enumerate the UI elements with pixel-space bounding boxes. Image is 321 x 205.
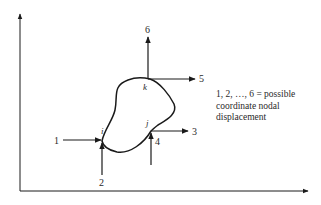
node-label-k: k — [143, 82, 148, 92]
displacement-label-5: 5 — [199, 73, 204, 84]
element-boundary — [102, 78, 175, 153]
displacement-label-2: 2 — [99, 177, 104, 188]
displacement-label-6: 6 — [145, 24, 150, 35]
displacement-label-3: 3 — [192, 126, 197, 137]
caption-line: 1, 2, …, 6 = possible — [216, 89, 321, 101]
displacement-label-1: 1 — [54, 135, 59, 146]
node-label-j: j — [145, 118, 149, 128]
caption-line: displacement — [216, 112, 321, 124]
displacement-label-4: 4 — [155, 136, 160, 147]
caption: 1, 2, …, 6 = possible coordinate nodal d… — [216, 89, 321, 124]
caption-line: coordinate nodal — [216, 101, 321, 113]
